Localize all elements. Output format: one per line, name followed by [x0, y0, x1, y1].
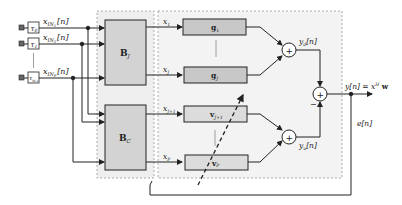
gsc-beamformer-diagram: τ0 xIN1[n] τ1 xIN2[n] τM-1 xINP[n] BJ BC [0, 0, 402, 205]
sensor-icon [19, 75, 24, 80]
svg-text:xIN1[n]: xIN1[n] [43, 17, 69, 28]
svg-text:+: + [317, 90, 325, 100]
svg-text:+: + [286, 46, 294, 56]
sensor-icon [19, 41, 24, 46]
summer-yd: + [282, 43, 296, 57]
sensor-icon [19, 25, 24, 30]
error-label: e[n] [357, 119, 372, 128]
block-bj: BJ [105, 20, 146, 85]
svg-text:xINP[n]: xINP[n] [43, 67, 70, 78]
svg-text:yd[n]: yd[n] [298, 37, 317, 47]
summer-final: + [313, 87, 327, 101]
input-channel-p: τM-1 xINP[n] [19, 67, 104, 83]
weight-g1: g1 [183, 19, 246, 35]
summer-yu: + [282, 130, 296, 144]
svg-text:−: − [310, 100, 317, 109]
input-channel-1: τ0 xIN1[n] [19, 17, 104, 33]
weight-vj1: vJ+1 [184, 106, 247, 122]
block-bc: BC [105, 105, 146, 170]
svg-text:yu[n]: yu[n] [298, 141, 317, 151]
svg-text:xIN2[n]: xIN2[n] [43, 33, 69, 44]
weight-gj: gJ [184, 67, 247, 83]
input-channel-2: τ1 xIN2[n] [19, 33, 104, 49]
weight-vp: vP [185, 155, 248, 170]
svg-text:y[n] = xH w: y[n] = xH w [344, 82, 389, 91]
svg-text:+: + [286, 133, 294, 143]
